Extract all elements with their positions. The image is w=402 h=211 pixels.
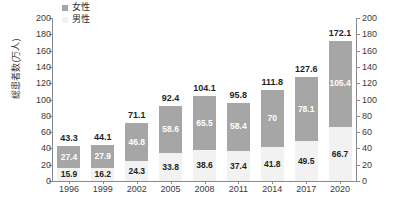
bar-segment-label-female: 27.4 (61, 153, 78, 162)
bar-group[interactable]: 105.466.7 (329, 41, 352, 181)
bar-segment-male[interactable]: 49.5 (295, 141, 318, 181)
y-tick-right (357, 100, 360, 101)
x-axis-labels: 199619992002200520082011201420172020 (52, 185, 357, 199)
bar-group[interactable]: 27.415.9 (57, 146, 80, 181)
y-tick-label-right: 200 (362, 14, 388, 23)
legend-item-female[interactable]: 女性 (62, 3, 90, 12)
bar-total-label: 71.1 (128, 111, 146, 120)
bar-group[interactable]: 58.437.4 (227, 103, 250, 181)
y-tick-label-right: 0 (362, 177, 388, 186)
y-tick-right (357, 83, 360, 84)
y-tick-right (357, 67, 360, 68)
x-axis-tick-label: 2005 (154, 185, 188, 194)
x-axis-tick-label: 2017 (289, 185, 323, 194)
bar-segment-male[interactable]: 16.2 (91, 168, 114, 181)
y-tick-label-right: 180 (362, 30, 388, 39)
bar-total-label: 127.6 (295, 65, 318, 74)
y-axis-title: 総患者数(万人) (9, 21, 22, 117)
bar-segment-label-female: 78.1 (298, 105, 315, 114)
bar-segment-female[interactable]: 27.4 (57, 146, 80, 168)
y-tick-label-left: 160 (27, 47, 51, 56)
bar-group[interactable]: 27.916.2 (91, 145, 114, 181)
y-tick-label-left: 100 (27, 96, 51, 105)
bar-total-label: 44.1 (94, 133, 112, 142)
bar-segment-male[interactable]: 15.9 (57, 168, 80, 181)
y-tick-right (357, 18, 360, 19)
y-tick-label-left: 140 (27, 63, 51, 72)
x-axis-tick-label: 2011 (221, 185, 255, 194)
y-tick-label-left: 120 (27, 79, 51, 88)
y-tick-label-left: 0 (27, 177, 51, 186)
bar-segment-label-female: 58.6 (162, 125, 179, 134)
y-tick-label-left: 80 (27, 112, 51, 121)
y-tick-label-right: 60 (362, 128, 388, 137)
x-axis-tick-label: 1999 (86, 185, 120, 194)
bar-segment-label-female: 58.4 (230, 122, 247, 131)
bar-segment-label-male: 16.2 (95, 170, 112, 179)
y-tick-label-right: 80 (362, 112, 388, 121)
bar-segment-female[interactable]: 65.5 (193, 96, 216, 149)
bar-total-label: 43.3 (60, 134, 78, 143)
bar-segment-label-male: 38.6 (196, 161, 213, 170)
bar-group[interactable]: 78.149.5 (295, 77, 318, 181)
y-tick-right (357, 34, 360, 35)
bar-segment-label-female: 105.4 (329, 79, 350, 88)
y-tick-label-left: 60 (27, 128, 51, 137)
bar-total-label: 92.4 (162, 94, 180, 103)
bar-group[interactable]: 58.633.8 (159, 106, 182, 181)
x-axis-tick-label: 2020 (323, 185, 357, 194)
y-tick-label-left: 40 (27, 144, 51, 153)
y-tick-label-left: 180 (27, 30, 51, 39)
bar-segment-label-male: 66.7 (332, 150, 349, 159)
y-tick-label-right: 140 (362, 63, 388, 72)
bar-segment-male[interactable]: 33.8 (159, 153, 182, 181)
bar-segment-label-female: 46.8 (128, 138, 145, 147)
bar-segment-label-male: 49.5 (298, 157, 315, 166)
x-axis-tick-label: 2014 (255, 185, 289, 194)
bar-series-layer: 27.415.943.327.916.244.146.824.371.158.6… (52, 18, 357, 182)
bar-segment-female[interactable]: 27.9 (91, 145, 114, 168)
bar-segment-female[interactable]: 78.1 (295, 77, 318, 141)
bar-segment-female[interactable]: 58.6 (159, 106, 182, 154)
y-tick-right (357, 148, 360, 149)
bar-segment-male[interactable]: 38.6 (193, 150, 216, 181)
y-tick-right (357, 51, 360, 52)
bar-segment-label-female: 65.5 (196, 119, 213, 128)
bar-segment-male[interactable]: 41.8 (261, 147, 284, 181)
y-tick-label-right: 160 (362, 47, 388, 56)
y-tick-label-right: 100 (362, 96, 388, 105)
bar-segment-label-male: 33.8 (162, 163, 179, 172)
bar-segment-female[interactable]: 70 (261, 90, 284, 147)
stacked-bar-chart: 総患者数(万人) 女性 男性 27.415.943.327.916.244.14… (0, 0, 402, 211)
legend-swatch-female-icon (62, 5, 68, 11)
bar-segment-female[interactable]: 58.4 (227, 103, 250, 151)
bar-segment-female[interactable]: 46.8 (125, 123, 148, 161)
bar-segment-male[interactable]: 66.7 (329, 127, 352, 181)
y-tick-right (357, 132, 360, 133)
bar-segment-male[interactable]: 24.3 (125, 161, 148, 181)
bar-total-label: 95.8 (230, 91, 248, 100)
legend-label-female: 女性 (72, 3, 90, 12)
bar-segment-male[interactable]: 37.4 (227, 151, 250, 181)
bar-segment-label-female: 70 (268, 114, 277, 123)
bar-segment-female[interactable]: 105.4 (329, 41, 352, 127)
y-tick-right (357, 165, 360, 166)
bar-group[interactable]: 46.824.3 (125, 123, 148, 181)
plot-area: 27.415.943.327.916.244.146.824.371.158.6… (52, 18, 357, 182)
x-axis-tick-label: 2008 (188, 185, 222, 194)
y-tick-right (357, 116, 360, 117)
bar-group[interactable]: 65.538.6 (193, 96, 216, 181)
bar-segment-label-male: 37.4 (230, 162, 247, 171)
bar-segment-label-male: 24.3 (128, 167, 145, 176)
y-tick-label-left: 200 (27, 14, 51, 23)
y-tick-right (357, 181, 360, 182)
y-tick-label-right: 120 (362, 79, 388, 88)
bar-segment-label-male: 15.9 (61, 170, 78, 179)
y-tick-label-right: 20 (362, 161, 388, 170)
bar-segment-label-female: 27.9 (95, 152, 112, 161)
bar-segment-label-male: 41.8 (264, 160, 281, 169)
bar-group[interactable]: 7041.8 (261, 90, 284, 181)
bar-total-label: 172.1 (329, 29, 352, 38)
bar-total-label: 104.1 (193, 84, 216, 93)
y-tick-label-right: 40 (362, 144, 388, 153)
